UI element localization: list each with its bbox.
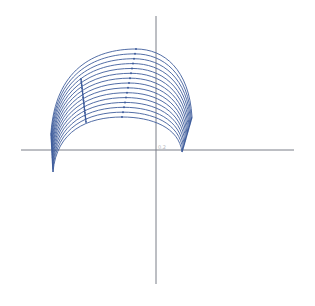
- apex-dot: [126, 92, 128, 94]
- apex-dot: [124, 101, 126, 103]
- arc-family-plot: 0.2: [0, 0, 315, 306]
- arc-curve: [52, 83, 187, 153]
- apex-dot: [125, 97, 127, 99]
- apex-dot: [123, 106, 125, 108]
- apex-dot: [128, 82, 130, 84]
- ridge-dots: [51, 48, 192, 172]
- arc-curves: [51, 49, 192, 172]
- apex-dot: [132, 63, 134, 65]
- apex-dot: [121, 116, 123, 118]
- apex-dot: [122, 111, 124, 113]
- apex-dot: [127, 87, 129, 89]
- apex-dot: [134, 53, 136, 55]
- apex-dot: [131, 67, 133, 69]
- apex-dot: [129, 77, 131, 79]
- apex-dot: [133, 58, 135, 60]
- arc-curve: [53, 112, 183, 169]
- arc-curve: [53, 102, 185, 163]
- origin-label: 0.2: [158, 144, 166, 150]
- arc-curve: [52, 68, 190, 144]
- apex-dot: [130, 72, 132, 74]
- arc-curve: [53, 107, 184, 166]
- apex-dot: [135, 48, 137, 50]
